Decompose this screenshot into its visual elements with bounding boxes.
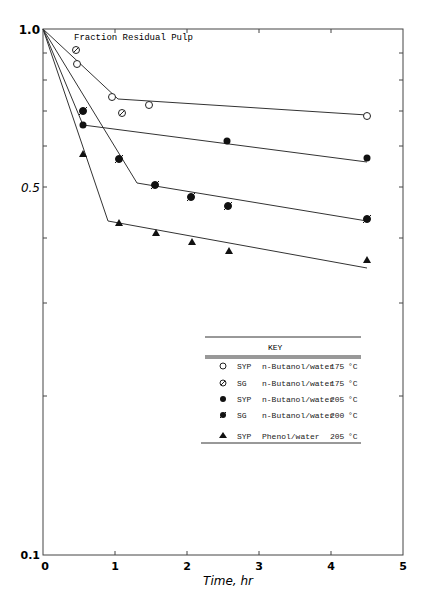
x-axis-title: Time, hr [203,574,254,588]
svg-text:°C: °C [348,379,358,388]
svg-text:SYP: SYP [237,395,252,404]
svg-text:SG: SG [237,379,247,388]
plot-frame [43,29,403,555]
svg-text:n-Butanol/water: n-Butanol/water [262,395,334,404]
fit-syp-phenol-205 [43,29,367,268]
chart-title: Fraction Residual Pulp [74,33,193,43]
legend-rows: SYPn-Butanol/water175°C SGn-Butanol/wate… [237,362,358,441]
x-label-1: 1 [111,560,119,573]
x-label-0: 0 [41,560,49,573]
svg-text:200: 200 [330,411,345,420]
svg-text:205: 205 [330,432,345,441]
svg-text:°C: °C [348,411,358,420]
x-label-5: 5 [399,560,407,573]
y-label-0.1: 0.1 [21,549,41,562]
fit-lines [43,29,367,268]
legend: KEY [201,337,361,443]
svg-text:n-Butanol/water: n-Butanol/water [262,379,334,388]
y-ticks [43,53,403,396]
svg-text:SYP: SYP [237,362,252,371]
y-label-1.0: 1.0 [19,23,40,37]
svg-text:°C: °C [348,362,358,371]
x-label-2: 2 [183,560,191,573]
legend-title: KEY [268,343,283,352]
svg-text:205: 205 [330,395,345,404]
series-sg-butanol-200 [79,107,371,223]
y-label-0.5: 0.5 [21,181,40,195]
svg-text:175: 175 [330,379,345,388]
fit-syp-butanol-205 [43,29,367,162]
svg-text:n-Butanol/water: n-Butanol/water [262,362,334,371]
x-label-4: 4 [327,560,335,573]
svg-text:175: 175 [330,362,345,371]
series-syp-butanol-175 [74,61,371,120]
svg-text:SYP: SYP [237,432,252,441]
svg-text:SG: SG [237,411,247,420]
svg-text:°C: °C [348,432,358,441]
x-label-3: 3 [255,560,263,573]
chart: 1.0 0.5 0.1 0 1 2 3 4 5 Time, hr Fractio… [0,0,429,614]
svg-text:Phenol/water: Phenol/water [262,432,320,441]
svg-text:n-Butanol/water: n-Butanol/water [262,411,334,420]
svg-text:°C: °C [348,395,358,404]
fit-sg-butanol-200 [43,29,367,221]
